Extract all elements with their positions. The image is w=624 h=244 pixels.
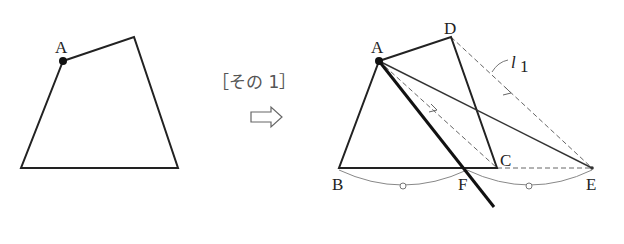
label-d: D bbox=[444, 19, 456, 38]
label-f: F bbox=[458, 175, 467, 194]
label-a-left: A bbox=[55, 38, 68, 57]
equal-mark-bf bbox=[400, 183, 406, 189]
diagram-canvas: A ［その 1］ A D C B F E l bbox=[0, 0, 624, 244]
label-e: E bbox=[586, 175, 596, 194]
label-c: C bbox=[500, 151, 511, 170]
point-a-dot-right bbox=[375, 57, 383, 65]
label-l1-subscript: 1 bbox=[520, 57, 529, 76]
label-l1: l bbox=[511, 53, 516, 72]
equal-mark-fe bbox=[526, 183, 532, 189]
right-construction: A D C B F E l 1 bbox=[332, 19, 596, 207]
label-a: A bbox=[371, 38, 384, 57]
label-b: B bbox=[332, 175, 343, 194]
point-a-dot bbox=[59, 57, 67, 65]
left-quadrilateral: A bbox=[21, 37, 178, 168]
dashed-ac bbox=[379, 61, 497, 168]
double-right-arrow-icon bbox=[251, 107, 282, 127]
line-ae bbox=[379, 61, 592, 168]
caption: ［その 1］ bbox=[212, 72, 296, 92]
